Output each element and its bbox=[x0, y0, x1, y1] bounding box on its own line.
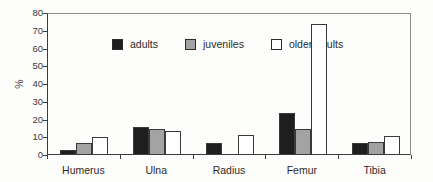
bar-adults-radius bbox=[206, 143, 222, 154]
category-label-tibia: Tibia bbox=[335, 164, 415, 176]
category-label-femur: Femur bbox=[262, 164, 342, 176]
ytick-label-60: 60 bbox=[15, 44, 43, 54]
legend-item-juveniles: juveniles bbox=[185, 39, 271, 50]
category-label-ulna: Ulna bbox=[116, 164, 196, 176]
legend-item-adults: adults bbox=[112, 39, 185, 50]
bar-older-adults-tibia bbox=[384, 136, 400, 154]
xtick-mark-2 bbox=[193, 155, 194, 159]
bar-adults-humerus bbox=[60, 150, 76, 154]
xtick-mark-1 bbox=[120, 155, 121, 159]
ytick-label-70: 70 bbox=[15, 26, 43, 36]
xtick-mark-3 bbox=[265, 155, 266, 159]
bar-older-adults-femur bbox=[311, 24, 327, 154]
legend-label-adults: adults bbox=[130, 39, 158, 50]
bar-adults-tibia bbox=[352, 143, 368, 154]
bar-juveniles-humerus bbox=[76, 143, 92, 154]
ytick-label-20: 20 bbox=[15, 115, 43, 125]
ytick-label-0: 0 bbox=[15, 150, 43, 160]
bar-juveniles-ulna bbox=[149, 129, 165, 154]
legend-swatch-older-adults bbox=[271, 39, 282, 50]
bar-adults-femur bbox=[279, 113, 295, 154]
legend-swatch-juveniles bbox=[185, 39, 196, 50]
xtick-mark-0 bbox=[47, 155, 48, 159]
ytick-label-30: 30 bbox=[15, 97, 43, 107]
bar-juveniles-tibia bbox=[368, 142, 384, 154]
bar-older-adults-radius bbox=[238, 135, 254, 154]
ytick-label-40: 40 bbox=[15, 79, 43, 89]
bar-chart-figure: % 01020304050607080 adults juveniles old… bbox=[0, 0, 433, 182]
category-label-radius: Radius bbox=[189, 164, 269, 176]
bar-older-adults-humerus bbox=[92, 137, 108, 154]
ytick-label-10: 10 bbox=[15, 133, 43, 143]
ytick-label-50: 50 bbox=[15, 62, 43, 72]
bar-older-adults-ulna bbox=[165, 131, 181, 154]
category-label-humerus: Humerus bbox=[43, 164, 123, 176]
bar-adults-ulna bbox=[133, 127, 149, 155]
xtick-mark-5 bbox=[411, 155, 412, 159]
bar-juveniles-femur bbox=[295, 129, 311, 154]
legend-swatch-adults bbox=[112, 39, 123, 50]
legend-label-juveniles: juveniles bbox=[203, 39, 244, 50]
ytick-label-80: 80 bbox=[15, 8, 43, 18]
legend: adults juveniles older adults bbox=[112, 39, 343, 50]
plot-area: adults juveniles older adults bbox=[47, 13, 411, 155]
legend-item-older-adults: older adults bbox=[271, 39, 343, 50]
xtick-mark-4 bbox=[338, 155, 339, 159]
